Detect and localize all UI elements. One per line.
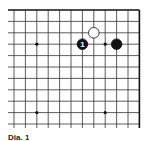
star-point [35,43,38,46]
stones: 1 [77,28,122,50]
star-point [104,43,107,46]
black-stone [111,39,122,50]
board-grid [8,10,139,128]
white-stone [89,28,100,39]
diagram-caption: Dia. 1 [8,134,29,141]
star-point [104,111,107,114]
go-board: 1 [0,0,145,132]
move-number: 1 [80,40,85,49]
star-point [35,111,38,114]
